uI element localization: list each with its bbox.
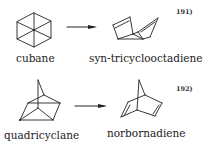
reference-number: 191) bbox=[176, 9, 193, 16]
product-label: syn-tricyclooctadiene bbox=[89, 53, 203, 64]
reaction-arrow-icon bbox=[67, 25, 97, 29]
product-label: norbornadiene bbox=[107, 128, 185, 139]
syn-tricyclooctadiene-structure-icon bbox=[113, 17, 158, 39]
quadricyclane-structure-icon bbox=[19, 80, 60, 121]
cubane-structure-icon bbox=[17, 13, 51, 47]
norbornadiene-structure-icon bbox=[121, 80, 162, 117]
reactant-label: cubane bbox=[16, 53, 55, 64]
reference-number: 192) bbox=[176, 86, 193, 93]
reaction-scheme bbox=[0, 0, 212, 145]
reaction-arrow-icon bbox=[75, 104, 107, 108]
reactant-label: quadricyclane bbox=[4, 130, 79, 141]
